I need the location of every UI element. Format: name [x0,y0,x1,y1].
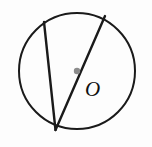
center-label-o: O [85,77,100,101]
diameter-right-line [56,16,106,130]
center-point-dot [74,68,80,74]
geometry-figure-canvas: O [0,0,152,147]
circle-diagram-svg: O [0,0,152,147]
chord-left-line [44,22,56,130]
